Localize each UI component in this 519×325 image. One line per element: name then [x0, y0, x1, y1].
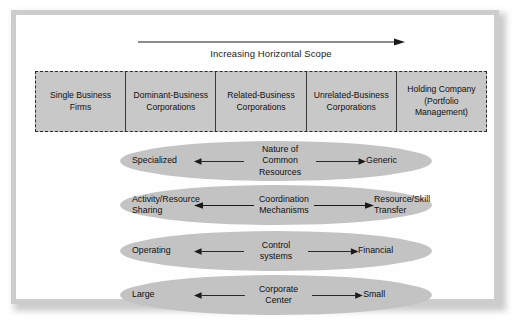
dimension-band-nature-of-common-resources: Specialized Nature of Common Resources G… — [120, 141, 432, 181]
left-arrow-icon — [194, 156, 244, 167]
band-core: Control systems — [194, 231, 358, 271]
band-dimension-name: Corporate Center — [247, 284, 311, 307]
band-content: Large Corporate Center Small — [120, 275, 432, 315]
band-core: Coordination Mechanisms — [194, 185, 374, 225]
band-dimension-name: Control systems — [246, 240, 305, 263]
band-right-label: Financial — [358, 245, 420, 256]
right-arrow-icon — [314, 200, 374, 211]
band-content: Activity/Resource Sharing Coordination M… — [120, 185, 432, 225]
dimension-band-control-systems: Operating Control systems Financial — [120, 231, 432, 271]
right-arrow-icon — [316, 156, 366, 167]
dimension-band-corporate-center: Large Corporate Center Small — [120, 275, 432, 315]
right-arrow-icon — [312, 290, 363, 301]
left-arrow-icon — [194, 290, 245, 301]
band-left-label: Activity/Resource Sharing — [132, 194, 194, 217]
right-arrow-icon — [308, 246, 358, 257]
horizontal-scope-axis: Increasing Horizontal Scope — [136, 35, 406, 69]
band-right-label: Small — [363, 289, 425, 300]
band-dimension-name: Coordination Mechanisms — [256, 194, 312, 217]
strategy-type-table: Single Business Firms Dominant-Business … — [35, 71, 487, 132]
strategy-type-cell-holding-company[interactable]: Holding Company (Portfolio Management) — [397, 72, 486, 131]
band-content: Specialized Nature of Common Resources G… — [120, 141, 432, 181]
right-arrow-icon — [136, 37, 406, 47]
dimension-band-coordination-mechanisms: Activity/Resource Sharing Coordination M… — [120, 185, 432, 225]
band-right-label: Resource/Skill Transfer — [374, 194, 436, 217]
strategy-type-cell-unrelated-business[interactable]: Unrelated-Business Corporations — [307, 72, 397, 131]
band-left-label: Large — [132, 289, 194, 300]
left-arrow-icon — [194, 200, 254, 211]
band-content: Operating Control systems Financial — [120, 231, 432, 271]
band-right-label: Generic — [366, 155, 428, 166]
horizontal-scope-label: Increasing Horizontal Scope — [136, 48, 406, 59]
band-left-label: Specialized — [132, 155, 194, 166]
band-dimension-name: Nature of Common Resources — [246, 144, 314, 178]
panel-inner-surface: Increasing Horizontal Scope Single Busin… — [16, 15, 494, 299]
strategy-type-cell-related-business[interactable]: Related-Business Corporations — [216, 72, 306, 131]
figure-panel: Increasing Horizontal Scope Single Busin… — [11, 10, 499, 304]
band-core: Corporate Center — [194, 275, 363, 315]
band-core: Nature of Common Resources — [194, 141, 366, 181]
strategy-type-cell-single-business[interactable]: Single Business Firms — [36, 72, 126, 131]
band-left-label: Operating — [132, 245, 194, 256]
left-arrow-icon — [194, 246, 244, 257]
figure-canvas: Increasing Horizontal Scope Single Busin… — [0, 0, 519, 325]
strategy-type-cell-dominant-business[interactable]: Dominant-Business Corporations — [126, 72, 216, 131]
